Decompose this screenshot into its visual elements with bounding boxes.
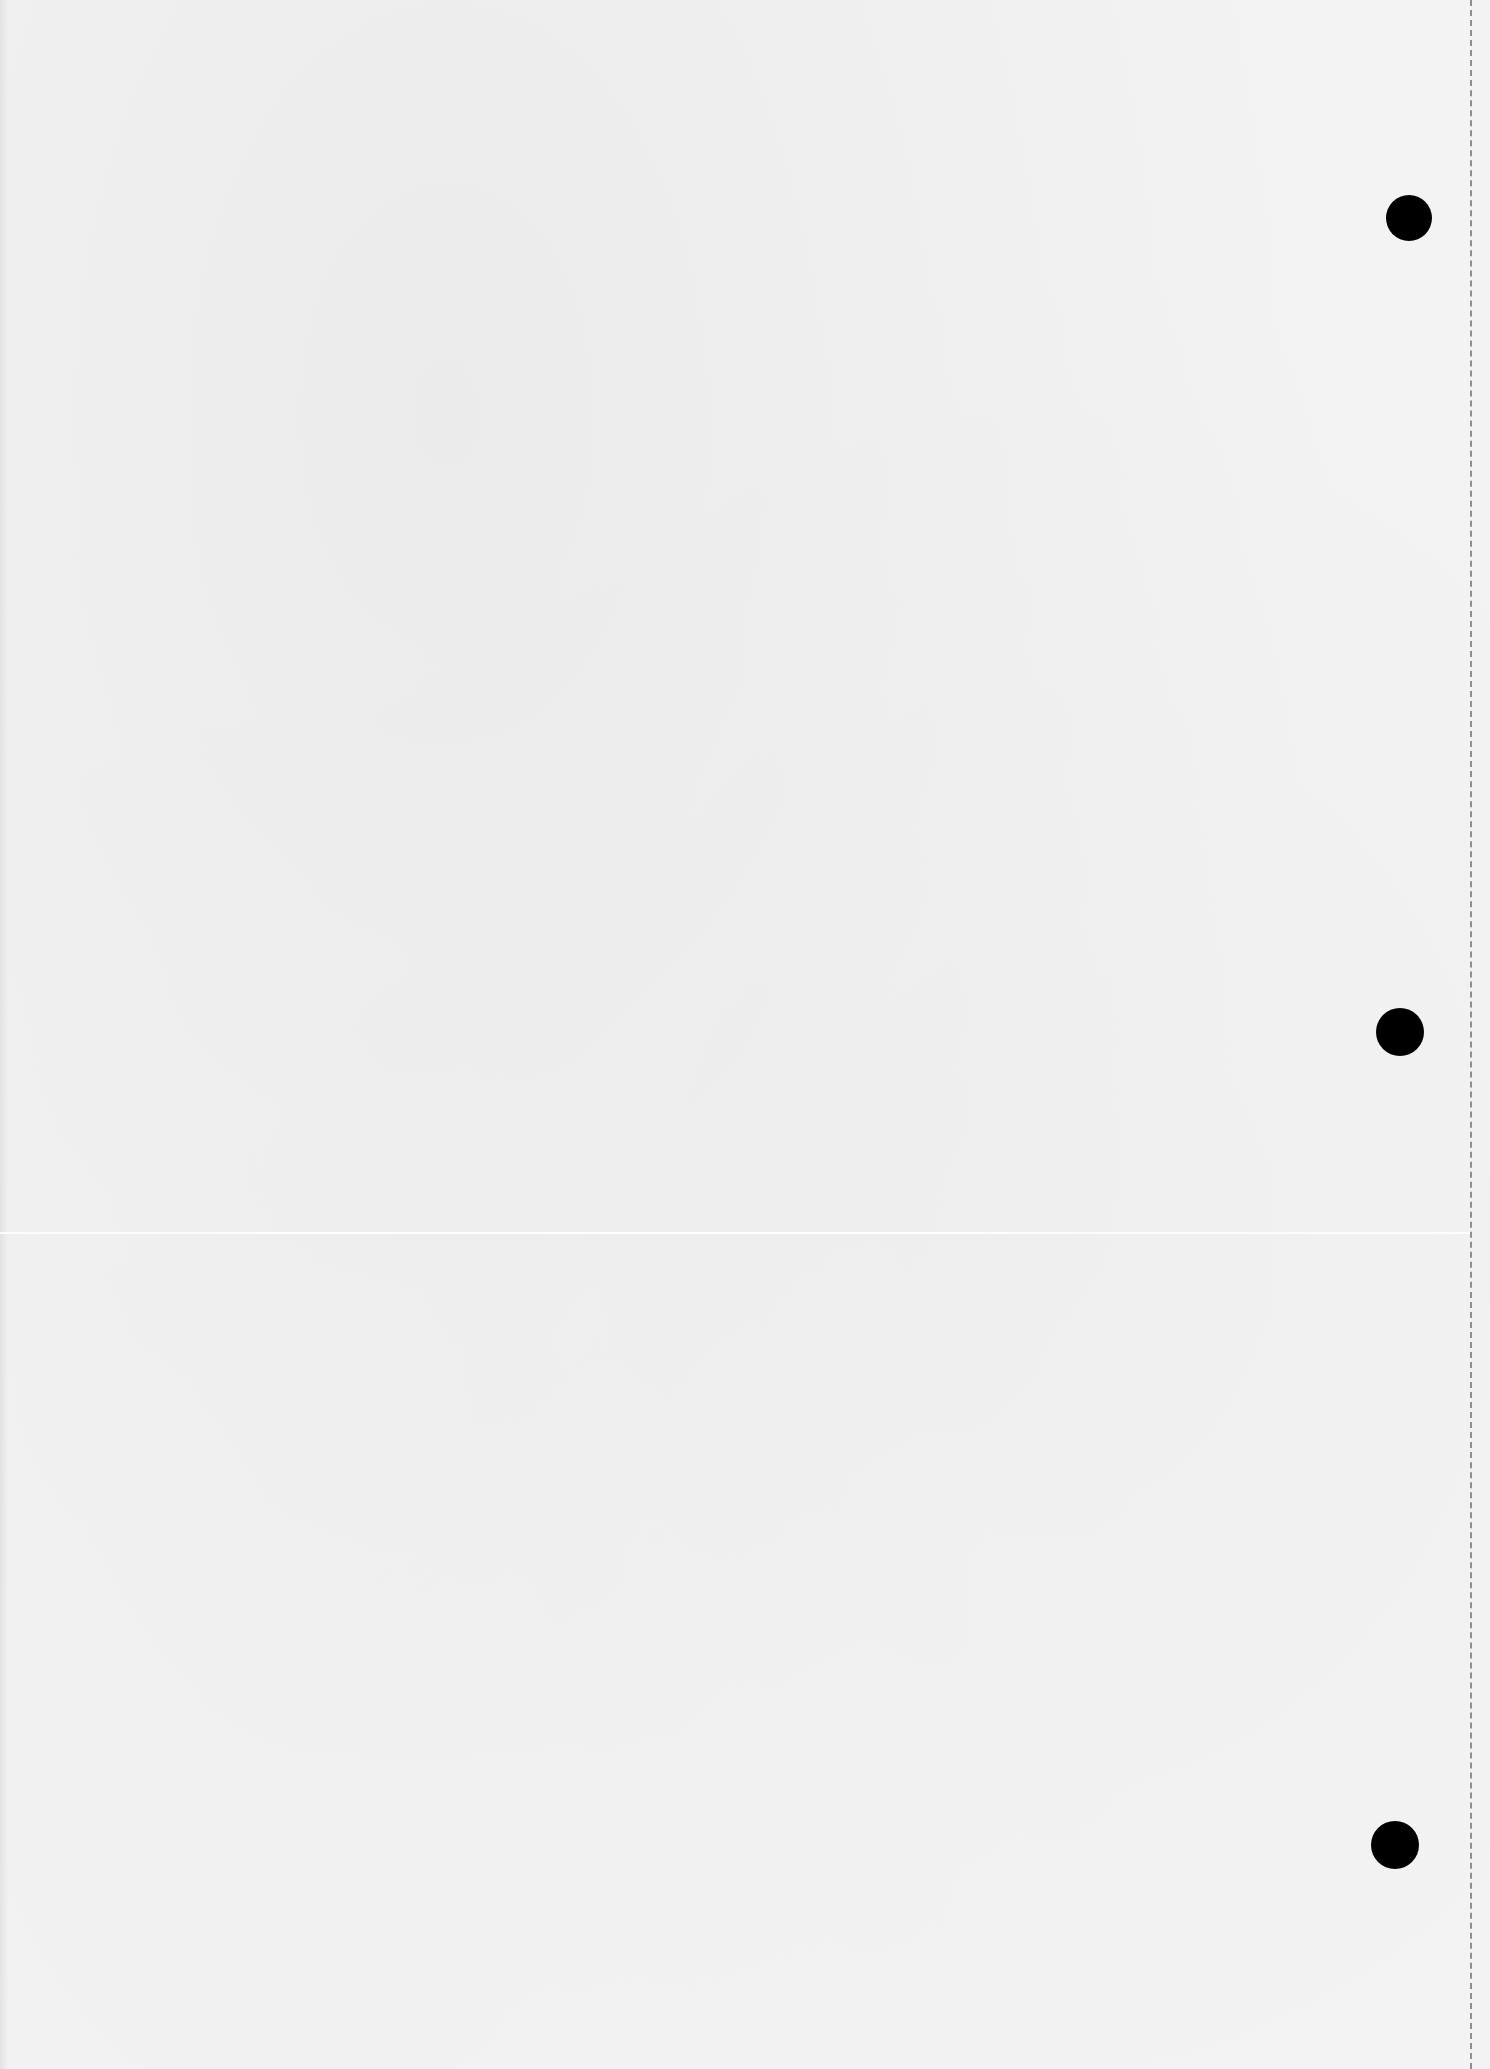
bleed-body-line — [20, 516, 1460, 544]
bleed-body-line — [20, 964, 1460, 992]
bleed-body-line — [20, 572, 1460, 600]
bleed-body-line — [20, 768, 1460, 796]
bleed-body-line — [20, 544, 1460, 572]
punch-hole-icon — [1386, 195, 1432, 241]
bleed-body-line — [20, 404, 1460, 432]
bleed-title — [20, 132, 1460, 160]
bleed-body-line — [20, 936, 1460, 964]
bleed-body-line — [20, 628, 1460, 656]
punch-hole-icon — [1371, 1821, 1419, 1869]
bleed-through-header — [20, 48, 1460, 160]
bleed-body-line — [20, 320, 1460, 348]
bleed-body-line — [20, 684, 1460, 712]
bleed-header-line — [20, 48, 1460, 76]
bleed-through-body — [20, 320, 1460, 1020]
scanned-page — [0, 0, 1490, 2069]
bleed-body-line — [20, 488, 1460, 516]
bleed-body-line — [20, 740, 1460, 768]
scan-fold-line — [0, 1232, 1470, 1234]
bleed-header-line — [20, 76, 1460, 104]
bleed-body-line — [20, 908, 1460, 936]
bleed-body-line — [20, 880, 1460, 908]
bleed-body-line — [20, 992, 1460, 1020]
bleed-body-line — [20, 348, 1460, 376]
bleed-body-line — [20, 656, 1460, 684]
punch-hole-icon — [1376, 1008, 1424, 1056]
bleed-body-line — [20, 712, 1460, 740]
page-edge-shadow — [0, 0, 8, 2069]
bleed-body-line — [20, 432, 1460, 460]
bleed-body-line — [20, 852, 1460, 880]
perforation-tear-line — [1470, 0, 1472, 2069]
bleed-body-line — [20, 376, 1460, 404]
bleed-header-line — [20, 104, 1460, 132]
bleed-body-line — [20, 600, 1460, 628]
bleed-body-line — [20, 460, 1460, 488]
bleed-body-line — [20, 796, 1460, 824]
bleed-body-line — [20, 824, 1460, 852]
